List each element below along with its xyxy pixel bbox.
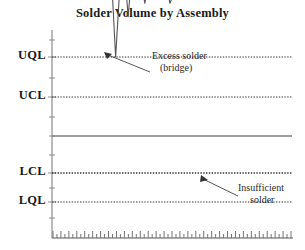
annotation-excess-solder-line2: (bridge)	[160, 62, 192, 74]
chart-plot-area	[0, 0, 305, 250]
insufficient-solder-leader	[200, 175, 238, 196]
axis-label-uql: UQL	[0, 48, 46, 63]
annotation-excess-solder-line1: Excess solder	[152, 50, 207, 62]
x-axis-ticks	[53, 231, 291, 238]
annotation-insufficient-solder-line2: solder	[250, 194, 274, 206]
control-chart-figure: Solder Volume by Assembly	[0, 0, 305, 250]
annotation-insufficient-solder-line1: Insufficient	[238, 182, 284, 194]
excess-solder-leader	[104, 52, 150, 72]
data-series-line	[53, 0, 291, 57]
axis-label-ucl: UCL	[0, 88, 46, 103]
axis-label-lql: LQL	[0, 193, 46, 208]
axis-label-lcl: LCL	[0, 164, 46, 179]
